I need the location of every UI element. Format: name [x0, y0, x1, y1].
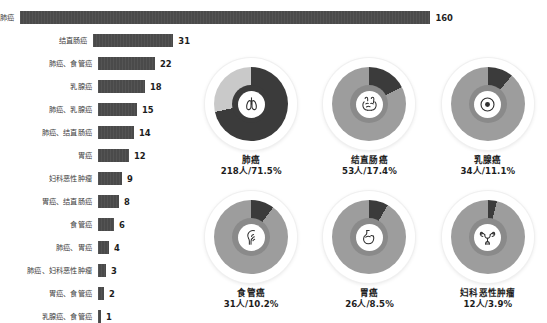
bar-fill: [20, 11, 430, 24]
bar-row: 食管癌6: [0, 213, 190, 236]
donut-pie-segments: [451, 67, 525, 141]
donut-title: 胃癌: [345, 288, 394, 299]
donut-caption: 胃癌26人/8.5%: [345, 288, 394, 310]
bar-row: 肺癌、胃癌4: [0, 236, 190, 259]
donut-stat-label: 26人/8.5%: [345, 299, 394, 310]
bar-value-label: 18: [150, 82, 162, 92]
bar-category-label: 胃癌、结直肠癌: [0, 197, 98, 206]
donut-title: 肺癌: [221, 155, 282, 166]
bar-value-label: 160: [435, 13, 452, 23]
bar-row: 妇科恶性肿瘤9: [0, 167, 190, 190]
bar-category-label: 妇科恶性肿瘤: [0, 174, 98, 183]
bar-fill: [98, 57, 155, 70]
donut-chart: [205, 191, 297, 283]
bar-value-label: 1: [106, 312, 112, 322]
bar-value-label: 15: [142, 105, 154, 115]
bar-row: 结直肠癌31: [0, 29, 190, 52]
bar-fill: [98, 218, 114, 231]
bar-track: 31: [93, 34, 190, 47]
bar-fill: [98, 310, 101, 323]
intestine-icon: [356, 91, 383, 118]
bar-fill: [98, 287, 104, 300]
bar-value-label: 31: [178, 36, 190, 46]
lungs-icon: [238, 91, 265, 118]
donut-chart: [205, 58, 297, 150]
donut-caption: 结直肠癌53人/17.4%: [342, 155, 397, 177]
bar-value-label: 12: [134, 151, 146, 161]
donut-pie-segments: [214, 200, 288, 274]
bar-row: 肺癌、乳腺癌15: [0, 98, 190, 121]
donut-cell: 结直肠癌53人/17.4%: [310, 58, 428, 191]
donut-title: 结直肠癌: [342, 155, 397, 166]
donut-center-hub: [469, 218, 507, 256]
bar-value-label: 6: [119, 220, 125, 230]
bar-row: 胃癌、结直肠癌8: [0, 190, 190, 213]
donut-chart: [323, 191, 415, 283]
donut-pie-segments: [332, 67, 406, 141]
cancer-type-donut-grid: 肺癌218人/71.5% 结直肠癌53人/17.4% 乳腺癌34人/11.1% …: [192, 58, 547, 323]
bar-track: 9: [98, 172, 133, 185]
donut-cell: 乳腺癌34人/11.1%: [429, 58, 547, 191]
bar-category-label: 肺癌: [0, 13, 20, 22]
bar-category-label: 肺癌、食管癌: [0, 59, 98, 68]
bar-fill: [98, 172, 122, 185]
uterus-icon: [474, 224, 501, 251]
bar-category-label: 结直肠癌: [0, 36, 93, 45]
bar-track: 8: [98, 195, 130, 208]
donut-chart: [323, 58, 415, 150]
bar-row: 肺癌、结直肠癌14: [0, 121, 190, 144]
bar-value-label: 8: [124, 197, 130, 207]
donut-pie-segments: [214, 67, 288, 141]
donut-caption: 肺癌218人/71.5%: [221, 155, 282, 177]
donut-cell: 肺癌218人/71.5%: [192, 58, 310, 191]
donut-chart: [442, 58, 534, 150]
bar-category-label: 胃癌、食管癌: [0, 289, 98, 298]
donut-stat-label: 12人/3.9%: [460, 299, 515, 310]
bar-track: 14: [98, 126, 151, 139]
bar-category-label: 肺癌、胃癌: [0, 243, 98, 252]
bar-category-label: 乳腺癌: [0, 82, 98, 91]
donut-cell: 妇科恶性肿瘤12人/3.9%: [429, 191, 547, 323]
stomach-icon: [356, 224, 383, 251]
donut-center-hub: [232, 85, 270, 123]
bar-track: 3: [98, 264, 117, 277]
bar-fill: [98, 149, 129, 162]
bar-track: 1: [98, 310, 112, 323]
donut-pie-segments: [451, 200, 525, 274]
donut-caption: 食管癌31人/10.2%: [224, 288, 279, 310]
bar-value-label: 3: [111, 266, 117, 276]
bar-track: 22: [98, 57, 172, 70]
bar-fill: [98, 103, 137, 116]
bar-row: 肺癌、食管癌22: [0, 52, 190, 75]
donut-stat-label: 218人/71.5%: [221, 166, 282, 177]
donut-chart: [442, 191, 534, 283]
bar-value-label: 9: [127, 174, 133, 184]
bar-track: 160: [20, 11, 452, 24]
bar-row: 胃癌12: [0, 144, 190, 167]
donut-stat-label: 31人/10.2%: [224, 299, 279, 310]
bar-row: 乳腺癌18: [0, 75, 190, 98]
bar-category-label: 肺癌、乳腺癌: [0, 105, 98, 114]
cancer-type-bar-chart: 肺癌160结直肠癌31肺癌、食管癌22乳腺癌18肺癌、乳腺癌15肺癌、结直肠癌1…: [0, 6, 190, 323]
bar-category-label: 肺癌、结直肠癌: [0, 128, 98, 137]
bar-track: 2: [98, 287, 115, 300]
donut-title: 乳腺癌: [460, 155, 515, 166]
donut-caption: 乳腺癌34人/11.1%: [460, 155, 515, 177]
bar-track: 15: [98, 103, 154, 116]
donut-center-hub: [350, 85, 388, 123]
bar-fill: [98, 195, 119, 208]
donut-center-hub: [232, 218, 270, 256]
esophagus-icon: [238, 224, 265, 251]
bar-row: 肺癌160: [0, 6, 190, 29]
breast-icon: [474, 91, 501, 118]
bar-category-label: 胃癌: [0, 151, 98, 160]
donut-center-hub: [469, 85, 507, 123]
bar-value-label: 4: [114, 243, 120, 253]
bar-fill: [98, 126, 134, 139]
bar-row: 乳腺癌、食管癌1: [0, 305, 190, 323]
bar-category-label: 乳腺癌、食管癌: [0, 312, 98, 321]
donut-cell: 食管癌31人/10.2%: [192, 191, 310, 323]
donut-caption: 妇科恶性肿瘤12人/3.9%: [460, 288, 515, 310]
bar-row: 肺癌、妇科恶性肿瘤3: [0, 259, 190, 282]
donut-center-hub: [350, 218, 388, 256]
